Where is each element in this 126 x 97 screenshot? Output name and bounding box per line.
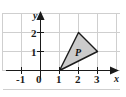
y-tick-label-2: 2	[31, 28, 37, 39]
triangle-label-p: P	[75, 48, 81, 58]
y-axis-label: y	[33, 11, 37, 21]
x-tick-label-neg1: -1	[16, 74, 25, 85]
graph-figure: -1 0 1 2 3 1 2 y x P	[0, 0, 126, 97]
x-tick-label-3: 3	[94, 74, 100, 85]
x-tick-label-1: 1	[56, 74, 62, 85]
x-tick-label-0: 0	[36, 74, 42, 85]
x-tick-label-2: 2	[75, 74, 81, 85]
y-tick-label-1: 1	[31, 47, 37, 58]
x-axis-label: x	[114, 74, 119, 84]
y-axis-arrow-icon	[36, 11, 44, 20]
